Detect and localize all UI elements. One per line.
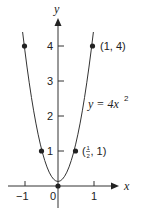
point-half-1 xyxy=(73,148,78,153)
x-tick-label-1: 1 xyxy=(91,190,97,202)
label-point-1-4: (1, 4) xyxy=(100,40,126,52)
y-axis-label: y xyxy=(53,2,60,16)
label-point-half-1: ( 1 2 , 1) xyxy=(82,145,106,159)
svg-text:y = 4x: y = 4x xyxy=(87,97,119,111)
y-tick-label-4: 4 xyxy=(47,40,53,52)
point-origin xyxy=(55,183,60,188)
point-neghalf-1 xyxy=(39,148,44,153)
x-axis-arrow-icon xyxy=(111,183,119,190)
point-neg1-4 xyxy=(22,43,27,48)
y-tick-label-3: 3 xyxy=(47,75,53,87)
x-tick-label-neg1: −1 xyxy=(16,190,29,202)
svg-text:2: 2 xyxy=(124,94,129,103)
svg-text:, 1): , 1) xyxy=(91,145,107,157)
svg-text:(: ( xyxy=(82,145,86,157)
y-tick-label-2: 2 xyxy=(47,110,53,122)
x-tick-label-0: 0 xyxy=(50,190,56,202)
y-tick-label-1: 1 xyxy=(47,145,53,157)
x-axis-label: x xyxy=(123,179,130,193)
point-1-4 xyxy=(90,43,95,48)
equation-label: y = 4x 2 xyxy=(87,94,129,111)
parabola-chart: y x −1 0 1 1 2 3 4 (1, 4) ( 1 2 , 1) y =… xyxy=(0,0,141,214)
y-axis-arrow-icon xyxy=(55,18,62,26)
